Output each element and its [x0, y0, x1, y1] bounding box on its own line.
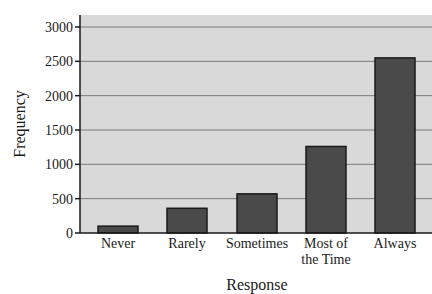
- y-axis-title: Frequency: [11, 90, 29, 158]
- x-category-label: Always: [374, 236, 417, 251]
- x-category-label: the Time: [301, 252, 350, 267]
- y-tick-label: 1000: [45, 157, 73, 172]
- y-tick-label: 500: [52, 192, 73, 207]
- x-axis-category-labels: NeverRarelySometimesMost ofthe TimeAlway…: [101, 236, 416, 267]
- x-axis-title: Response: [226, 276, 287, 294]
- x-category-label: Sometimes: [226, 236, 288, 251]
- bar-sometimes: [237, 194, 277, 233]
- bar-never: [98, 226, 138, 233]
- y-tick-label: 0: [66, 226, 73, 241]
- bar-most-of-the-time: [306, 146, 346, 233]
- x-category-label: Most of: [304, 236, 348, 251]
- x-category-label: Never: [101, 236, 136, 251]
- y-tick-label: 2500: [45, 54, 73, 69]
- y-tick-label: 2000: [45, 89, 73, 104]
- bar-rarely: [167, 208, 207, 233]
- x-category-label: Rarely: [168, 236, 205, 251]
- y-tick-label: 1500: [45, 123, 73, 138]
- bar-always: [375, 58, 415, 233]
- bar-chart: 050010001500200025003000 NeverRarelySome…: [0, 0, 432, 294]
- y-axis-ticks: 050010001500200025003000: [45, 20, 80, 241]
- y-tick-label: 3000: [45, 20, 73, 35]
